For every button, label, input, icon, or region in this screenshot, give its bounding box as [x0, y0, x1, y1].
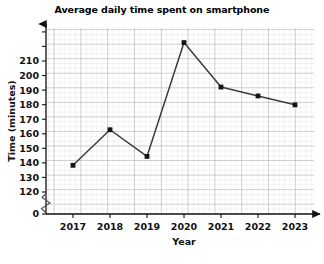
x-tick-label: 2017	[60, 221, 86, 232]
x-tick-label: 2022	[245, 221, 271, 232]
y-tick-label: 170	[19, 114, 39, 125]
data-point	[256, 94, 261, 99]
x-tick-label: 2021	[208, 221, 234, 232]
data-point	[71, 163, 76, 168]
y-tick-label: 190	[19, 85, 39, 96]
data-point	[108, 127, 113, 132]
y-tick-label: 160	[19, 128, 39, 139]
chart-container: Average daily time spent on smartphone	[0, 0, 324, 264]
y-tick-label: 120	[19, 186, 39, 197]
y-tick-label: 200	[19, 70, 39, 81]
y-tick-label: 130	[19, 172, 39, 183]
y-tick-label: 210	[19, 55, 39, 66]
x-axis-title: Year	[171, 236, 196, 247]
line-chart-plot: 0 120 130 140 150 160 170 180 190 200 21…	[0, 0, 324, 264]
x-tick-label: 2018	[97, 221, 124, 232]
x-tick-label: 2023	[282, 221, 308, 232]
y-axis-title: Time (minutes)	[6, 80, 17, 161]
data-point	[145, 154, 150, 159]
y-tick-label: 0	[32, 208, 39, 219]
y-tick-label: 150	[19, 143, 39, 154]
data-point	[293, 102, 298, 107]
data-point	[219, 85, 224, 90]
y-tick-label: 140	[19, 157, 39, 168]
data-point	[182, 40, 187, 45]
x-tick-label: 2019	[134, 221, 160, 232]
y-axis-tick-labels: 0 120 130 140 150 160 170 180 190 200 21…	[19, 55, 39, 219]
x-tick-label: 2020	[171, 221, 198, 232]
y-tick-label: 180	[19, 99, 39, 110]
x-axis-tick-labels: 2017 2018 2019 2020 2021 2022 2023	[60, 221, 308, 232]
